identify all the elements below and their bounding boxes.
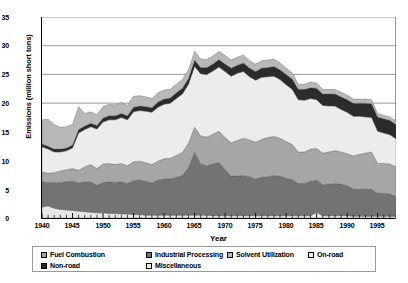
legend-swatch-industrial-processing	[146, 252, 152, 258]
x-tick-label: 1975	[238, 222, 272, 229]
x-tick-label: 1945	[55, 222, 89, 229]
x-tick-label: 1970	[208, 222, 242, 229]
legend-swatch-non-road	[41, 263, 47, 269]
chart-figure: 35 30 25 20 15 10 5 0 Emissions (million…	[0, 0, 408, 283]
y-tick-label: 15	[0, 129, 9, 136]
x-tick-label: 1960	[147, 222, 181, 229]
y-tick-label: 30	[0, 42, 9, 49]
area-series-group	[42, 51, 396, 218]
y-tick-label: 25	[0, 71, 9, 78]
legend-row: Fuel Combustion Industrial Processing So…	[37, 249, 375, 260]
legend-item-fuel-combustion: Fuel Combustion	[41, 249, 105, 260]
legend-swatch-on-road	[308, 252, 314, 258]
x-tick-label: 1995	[360, 222, 394, 229]
legend-label: Industrial Processing	[155, 251, 223, 258]
x-tick-label: 1985	[299, 222, 333, 229]
legend-item-industrial-processing: Industrial Processing	[146, 249, 223, 260]
legend-item-on-road: On-road	[308, 249, 343, 260]
legend-item-miscellaneous: Miscellaneous	[146, 260, 201, 271]
x-tick-label: 1950	[86, 222, 120, 229]
legend-item-non-road: Non-road	[41, 260, 80, 271]
x-tick-label: 1965	[177, 222, 211, 229]
stacked-area-plot	[42, 17, 396, 218]
plot-area	[41, 17, 396, 219]
legend-label: On-road	[317, 251, 343, 258]
legend-label: Fuel Combustion	[50, 251, 105, 258]
y-tick-label: 20	[0, 100, 9, 107]
legend-label: Miscellaneous	[155, 262, 201, 269]
legend-swatch-miscellaneous	[146, 263, 152, 269]
legend-label: Solvent Utilization	[236, 251, 294, 258]
legend-label: Non-road	[50, 262, 80, 269]
x-tick-label: 1980	[269, 222, 303, 229]
legend-row: Non-road Miscellaneous	[37, 260, 375, 271]
legend-swatch-solvent-utilization	[227, 252, 233, 258]
x-tick-label: 1990	[330, 222, 364, 229]
y-tick-label: 5	[0, 187, 9, 194]
x-tick-label: 1940	[25, 222, 59, 229]
y-tick-label: 35	[0, 14, 9, 21]
y-tick-label: 0	[0, 215, 9, 222]
x-axis-title: Year	[41, 234, 396, 243]
chart-legend: Fuel Combustion Industrial Processing So…	[32, 246, 376, 272]
x-tick-label: 1955	[116, 222, 150, 229]
y-axis-title: Emissions (million short tons)	[24, 12, 33, 162]
legend-swatch-fuel-combustion	[41, 252, 47, 258]
legend-item-solvent-utilization: Solvent Utilization	[227, 249, 294, 260]
y-tick-label: 10	[0, 158, 9, 165]
